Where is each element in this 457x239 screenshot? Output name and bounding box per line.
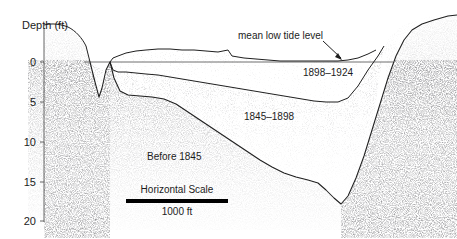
y-tick-label-5: 5 xyxy=(22,97,36,108)
left-bank-upland xyxy=(44,24,110,239)
era-label-1845-1898: 1845–1898 xyxy=(244,112,294,122)
horizontal-scale-bar xyxy=(126,199,228,203)
era-label-before-1845: Before 1845 xyxy=(147,152,202,162)
era-label-1898-1924: 1898–1924 xyxy=(303,68,353,78)
y-tick-label-15: 15 xyxy=(16,177,36,188)
mean-low-tide-arrow xyxy=(323,41,342,60)
horizontal-scale-value: 1000 ft xyxy=(125,207,229,217)
y-tick-label-0: 0 xyxy=(22,57,36,68)
mean-low-tide-label: mean low tide level xyxy=(238,31,323,41)
bathymetric-cross-section-figure: Depth (ft) 0 5 10 15 20 mean low tide le… xyxy=(0,0,457,239)
y-tick-label-20: 20 xyxy=(16,216,36,227)
y-tick-label-10: 10 xyxy=(16,137,36,148)
cross-section-plot xyxy=(0,0,457,239)
y-axis-title: Depth (ft) xyxy=(22,20,68,31)
horizontal-scale-title: Horizontal Scale xyxy=(125,185,229,195)
